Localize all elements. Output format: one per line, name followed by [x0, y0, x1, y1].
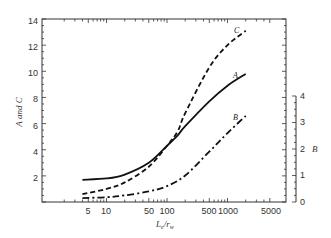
y-tick-6: 6 [33, 121, 38, 131]
y-tick-labels: 2 4 6 8 10 12 14 [28, 16, 38, 183]
x-tick-1000: 1000 [218, 206, 238, 216]
chart: 5 10 50 100 500 1000 5000 2 4 6 8 10 12 … [0, 0, 331, 238]
y-tick-10: 10 [28, 68, 38, 78]
y2-axis-title: B [312, 144, 318, 154]
y-tick-12: 12 [28, 42, 38, 52]
y-axis-ticks [42, 19, 286, 202]
y-axis-title: A and C [14, 96, 24, 127]
y2-tick-labels: 0 1 2 3 4 [300, 91, 305, 207]
curve-label-c: C [234, 26, 240, 35]
x-tick-labels: 5 10 50 100 500 1000 5000 [85, 206, 281, 216]
curve-b [82, 116, 245, 198]
curve-a [82, 74, 245, 180]
curve-label-b: B [233, 113, 238, 122]
x-tick-500: 500 [201, 206, 216, 216]
curve-c [82, 31, 245, 194]
plot-frame [42, 19, 286, 202]
x-axis-title: Le/rw [155, 219, 174, 230]
x-axis-title-sub-w: w [170, 224, 174, 230]
y2-tick-3: 3 [300, 117, 305, 127]
x-tick-5000: 5000 [261, 206, 281, 216]
y2-tick-4: 4 [300, 91, 305, 101]
y2-tick-2: 2 [300, 144, 305, 154]
y2-tick-0: 0 [300, 197, 305, 207]
y-tick-2: 2 [33, 173, 38, 183]
y-tick-4: 4 [33, 147, 38, 157]
x-tick-50: 50 [144, 206, 154, 216]
svg-text:Le/rw: Le/rw [155, 219, 174, 230]
x-axis-ticks [64, 19, 270, 202]
right-b-axis [292, 96, 296, 202]
x-tick-100: 100 [159, 206, 174, 216]
curve-label-a: A [232, 71, 238, 80]
x-tick-10: 10 [101, 206, 111, 216]
y2-tick-1: 1 [300, 170, 305, 180]
x-tick-5: 5 [85, 206, 90, 216]
y-tick-8: 8 [33, 94, 38, 104]
y-tick-14: 14 [28, 16, 38, 26]
